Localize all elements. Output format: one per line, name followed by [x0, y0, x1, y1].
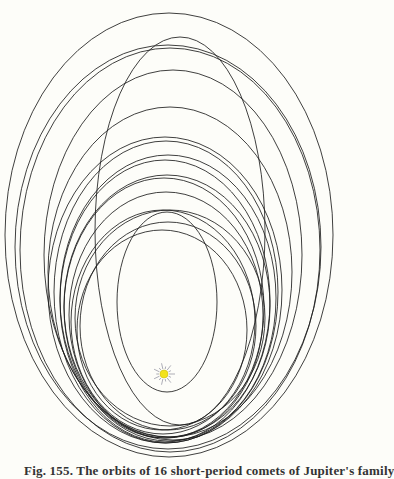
orbit-ellipses	[5, 13, 333, 457]
sun-ray	[159, 368, 161, 370]
sun-ray	[159, 378, 161, 380]
sun-icon	[154, 363, 175, 384]
sun-ray	[167, 378, 171, 383]
sun-ray	[169, 376, 171, 377]
orbit-ellipse	[117, 212, 217, 392]
orbit-ellipse	[5, 13, 333, 457]
sun-ray	[162, 379, 163, 385]
sun-ray	[165, 379, 166, 382]
orbit-ellipse	[95, 37, 265, 425]
sun-ray	[167, 365, 171, 370]
figure-caption: Fig. 155. The orbits of 16 short-period …	[24, 463, 354, 479]
sun-ray	[162, 363, 163, 369]
sun-disk	[160, 370, 168, 378]
sun-ray	[169, 371, 171, 372]
sun-ray	[154, 369, 159, 372]
sun-ray	[165, 366, 166, 369]
orbit-ellipse	[54, 141, 278, 443]
sun-ray	[154, 376, 159, 379]
orbit-ellipse	[71, 210, 255, 434]
orbit-ellipse	[75, 210, 265, 426]
